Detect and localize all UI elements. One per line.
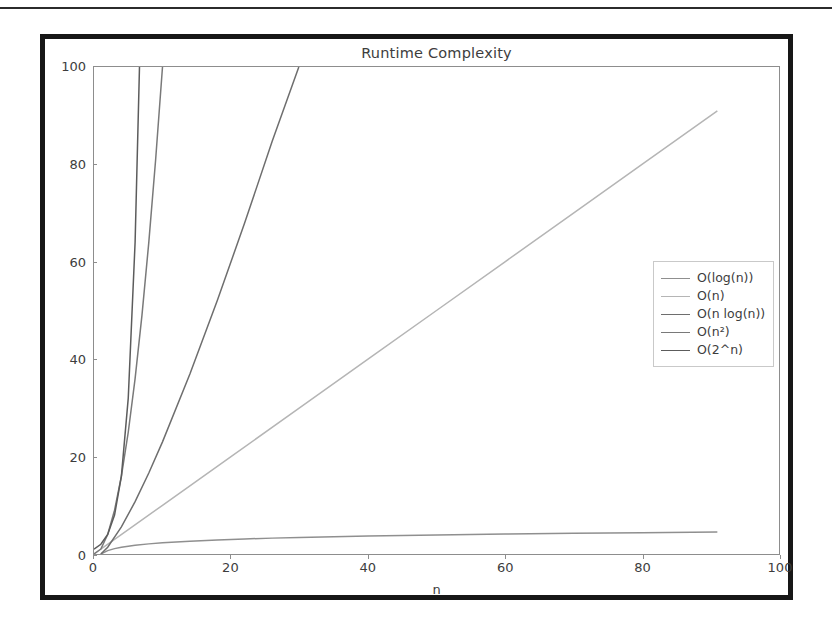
y-axis-tick-100: 100 <box>61 59 86 74</box>
y-axis-tick-20: 20 <box>69 450 86 465</box>
x-axis-tick-labels: 020406080100 <box>93 560 780 580</box>
series-line-o-n-log-n- <box>101 67 299 554</box>
legend-swatch-line-icon <box>661 350 690 351</box>
y-axis-tick-40: 40 <box>69 352 86 367</box>
x-axis-tick-80: 80 <box>634 560 651 575</box>
x-axis-tick-20: 20 <box>222 560 239 575</box>
series-line-o-log-n- <box>101 532 718 554</box>
page-top-rule <box>0 7 832 9</box>
legend-label: O(n) <box>697 290 725 303</box>
legend-item-2[interactable]: O(n) <box>661 287 765 305</box>
legend-item-1[interactable]: O(log(n)) <box>661 269 765 287</box>
x-tick-mark <box>643 555 644 559</box>
legend-swatch-line-icon <box>661 314 690 315</box>
legend-swatch-line-icon <box>661 296 690 297</box>
y-tick-mark <box>93 66 97 67</box>
series-line-o-n- <box>94 67 163 554</box>
x-axis-tick-40: 40 <box>360 560 377 575</box>
y-tick-mark <box>93 359 97 360</box>
x-axis-label: n <box>93 582 780 597</box>
y-tick-mark <box>93 164 97 165</box>
legend-label: O(n log(n)) <box>697 308 765 321</box>
figure-canvas: Runtime Complexity 020406080100 02040608… <box>45 39 788 595</box>
series-line-o-n- <box>101 111 718 549</box>
x-axis-tick-100: 100 <box>768 560 793 575</box>
x-tick-mark <box>505 555 506 559</box>
legend-label: O(n²) <box>697 326 730 339</box>
page-title: Runtime Complexity <box>93 45 780 61</box>
legend-label: O(log(n)) <box>697 272 753 285</box>
legend-item-3[interactable]: O(n log(n)) <box>661 305 765 323</box>
y-tick-mark <box>93 262 97 263</box>
y-axis-tick-60: 60 <box>69 254 86 269</box>
x-tick-mark <box>780 555 781 559</box>
x-axis-tick-0: 0 <box>89 560 97 575</box>
y-axis-tick-labels: 020406080100 <box>53 66 86 555</box>
legend-item-4[interactable]: O(n²) <box>661 323 765 341</box>
legend-label: O(2^n) <box>697 344 743 357</box>
series-line-o-2-n- <box>94 67 139 549</box>
figure-frame: Runtime Complexity 020406080100 02040608… <box>40 34 793 600</box>
x-tick-mark <box>93 555 94 559</box>
x-axis-tick-60: 60 <box>497 560 514 575</box>
y-tick-mark <box>93 457 97 458</box>
x-tick-mark <box>368 555 369 559</box>
y-axis-tick-80: 80 <box>69 156 86 171</box>
legend-item-5[interactable]: O(2^n) <box>661 341 765 359</box>
legend-swatch-line-icon <box>661 332 690 333</box>
y-axis-tick-0: 0 <box>78 548 86 563</box>
legend-swatch-line-icon <box>661 278 690 279</box>
chart-legend[interactable]: O(log(n))O(n)O(n log(n))O(n²)O(2^n) <box>653 261 774 367</box>
x-tick-mark <box>230 555 231 559</box>
